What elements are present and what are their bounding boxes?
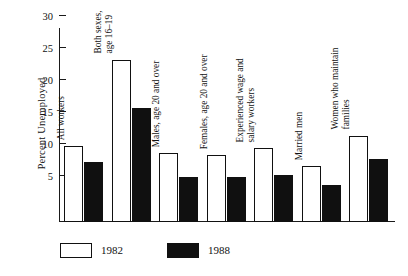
tick-mark: [59, 15, 66, 16]
bar-group: [159, 29, 198, 222]
tick-label: 5: [48, 170, 53, 181]
category-label: All workers: [56, 96, 67, 140]
plot-area: 30252015105 All workersBoth sexes,age 16…: [59, 28, 395, 222]
legend-item-1988: 1988: [167, 243, 230, 258]
bar-group: [112, 29, 151, 222]
category-label: Females, age 20 and over: [198, 54, 209, 149]
legend-item-1982: 1982: [60, 243, 123, 258]
legend-label: 1982: [101, 244, 123, 256]
bar-1988: [227, 177, 246, 222]
tick-label: 10: [43, 138, 54, 149]
tick-label: 20: [43, 74, 54, 85]
y-axis-title: Percent Unemployed: [36, 39, 47, 209]
legend-label: 1988: [208, 244, 230, 256]
tick-label: 30: [43, 10, 54, 21]
bar-1988: [84, 162, 103, 222]
tick-label: 25: [43, 42, 54, 53]
bar-1988: [322, 185, 341, 222]
legend-swatch-white-box: [60, 243, 92, 258]
bar-chart: Percent Unemployed 30252015105 All worke…: [0, 0, 408, 276]
bar-1988: [369, 159, 388, 222]
bar-group: [349, 29, 388, 222]
category-label-line: Women who maintain: [330, 48, 341, 130]
bar-1982: [159, 153, 178, 222]
bar-1988: [132, 108, 151, 222]
category-label: Males, age 20 and over: [151, 60, 162, 146]
category-label: Women who maintainfamilies: [330, 48, 352, 130]
bar-1982: [112, 60, 131, 222]
category-label-line: Females, age 20 and over: [198, 54, 209, 149]
bar-1988: [274, 175, 293, 222]
tick-label: 15: [43, 106, 54, 117]
bar-1982: [254, 148, 273, 222]
category-label-line: families: [341, 48, 352, 130]
category-label-line: Married men: [293, 112, 304, 160]
category-label: Married men: [293, 112, 304, 160]
category-label-line: salary workers: [246, 58, 257, 142]
category-label: Both sexes,age 16–19: [92, 11, 114, 54]
category-label-line: All workers: [56, 96, 67, 140]
category-label: Experienced wage andsalary workers: [235, 58, 257, 142]
legend-swatch-black-box: [167, 243, 199, 258]
category-label-line: Males, age 20 and over: [151, 60, 162, 146]
bar-1988: [179, 177, 198, 222]
bar-1982: [207, 155, 226, 222]
category-label-line: age 16–19: [103, 11, 114, 54]
bar-group: [64, 29, 103, 222]
legend: 19821988: [60, 239, 274, 261]
bar-1982: [64, 146, 83, 222]
category-label-line: Experienced wage and: [235, 58, 246, 142]
bar-1982: [349, 136, 368, 222]
category-label-line: Both sexes,: [92, 11, 103, 54]
bar-group: [254, 29, 293, 222]
bar-1982: [302, 166, 321, 222]
